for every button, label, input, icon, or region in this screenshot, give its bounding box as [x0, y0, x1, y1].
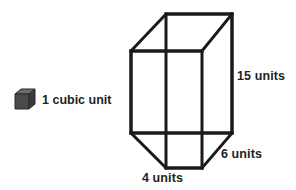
cube-front-face: [15, 94, 29, 109]
prism-diagram: 15 units 6 units 4 units 1 cubic unit: [0, 0, 296, 190]
legend: 1 cubic unit: [12, 88, 111, 112]
depth-dimension-label: 6 units: [221, 148, 262, 161]
unit-cube-icon: [12, 88, 36, 112]
height-dimension-label: 15 units: [237, 70, 285, 83]
bottom-left-depth-edge: [131, 133, 166, 168]
top-right-depth-edge: [202, 14, 232, 51]
front-face-edges: [166, 51, 202, 168]
prism-edges: [131, 14, 232, 168]
width-dimension-label: 4 units: [142, 172, 183, 185]
top-left-depth-edge: [131, 14, 166, 51]
legend-label: 1 cubic unit: [42, 94, 111, 107]
